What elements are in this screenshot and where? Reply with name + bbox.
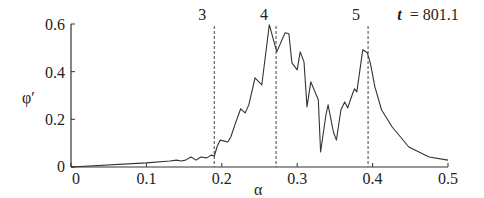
x-tick-label: 0.4 — [363, 170, 383, 187]
x-tick-label: 0.3 — [287, 170, 307, 187]
x-tick-label: 0.1 — [136, 170, 156, 187]
reference-lines: 345 — [198, 6, 368, 167]
x-tick-label: 0.5 — [438, 170, 458, 187]
line-chart: 00.20.40.6 00.10.20.30.40.5 345 φ′ α t =… — [0, 0, 484, 198]
reference-line-label: 3 — [198, 6, 206, 23]
axes — [71, 24, 448, 167]
data-series-line — [71, 25, 448, 167]
y-axis-label: φ′ — [22, 89, 35, 107]
y-tick-label: 0.2 — [45, 111, 65, 128]
reference-line-label: 5 — [352, 6, 360, 23]
y-tick-label: 0.6 — [45, 16, 65, 33]
y-tick-label: 0.4 — [45, 64, 65, 81]
x-tick-label: 0 — [72, 170, 80, 187]
time-value: = 801.1 — [410, 6, 459, 23]
time-symbol: t — [397, 6, 402, 23]
x-axis-label: α — [254, 181, 263, 198]
reference-line-label: 4 — [260, 6, 268, 23]
x-tick-label: 0.2 — [212, 170, 232, 187]
y-tick-label: 0 — [57, 158, 65, 175]
time-annotation: t = 801.1 — [397, 6, 458, 23]
